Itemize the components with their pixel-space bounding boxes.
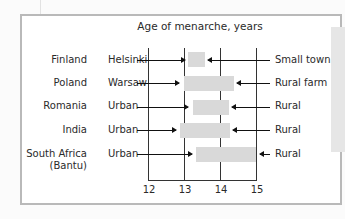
urban-arrow	[137, 107, 188, 108]
rural-arrow	[232, 107, 270, 108]
urban-arrow	[137, 130, 176, 131]
country-label: South Africa (Bantu)	[26, 148, 87, 172]
rural-arrow	[260, 154, 270, 155]
tick-label: 15	[251, 184, 264, 195]
country-label: Finland	[51, 54, 87, 66]
range-bar	[180, 123, 230, 138]
range-bar	[184, 76, 234, 91]
rural-label: Small town	[275, 54, 331, 65]
urban-arrow	[137, 154, 192, 155]
gridline-13	[184, 48, 185, 180]
rural-label: Rural	[275, 124, 301, 135]
country-label: India	[62, 124, 87, 136]
urban-arrow	[137, 83, 179, 84]
urban-label: Urban	[108, 148, 138, 159]
range-bar	[196, 147, 256, 162]
rural-arrow	[208, 60, 270, 61]
range-bar	[193, 100, 229, 115]
country-label: Poland	[54, 77, 87, 89]
range-bar	[188, 52, 205, 67]
country-name: South Africa	[26, 148, 87, 159]
gridline-15	[256, 48, 257, 180]
urban-label: Urban	[108, 124, 138, 135]
rural-arrow	[233, 130, 270, 131]
x-axis	[148, 180, 257, 181]
background-line	[40, 0, 41, 14]
rural-label: Rural farm	[275, 77, 327, 88]
tick-label: 13	[179, 184, 192, 195]
country-subname: (Bantu)	[50, 160, 87, 171]
rural-label: Rural	[275, 100, 301, 111]
country-label: Romania	[43, 100, 87, 112]
side-shade	[331, 27, 345, 152]
urban-arrow	[137, 60, 185, 61]
tick-label: 14	[215, 184, 228, 195]
gridline-12	[148, 48, 149, 180]
rural-label: Rural	[275, 148, 301, 159]
chart-title: Age of menarche, years	[0, 20, 345, 32]
urban-label: Urban	[108, 100, 138, 111]
tick-label: 12	[143, 184, 156, 195]
rural-arrow	[237, 83, 270, 84]
